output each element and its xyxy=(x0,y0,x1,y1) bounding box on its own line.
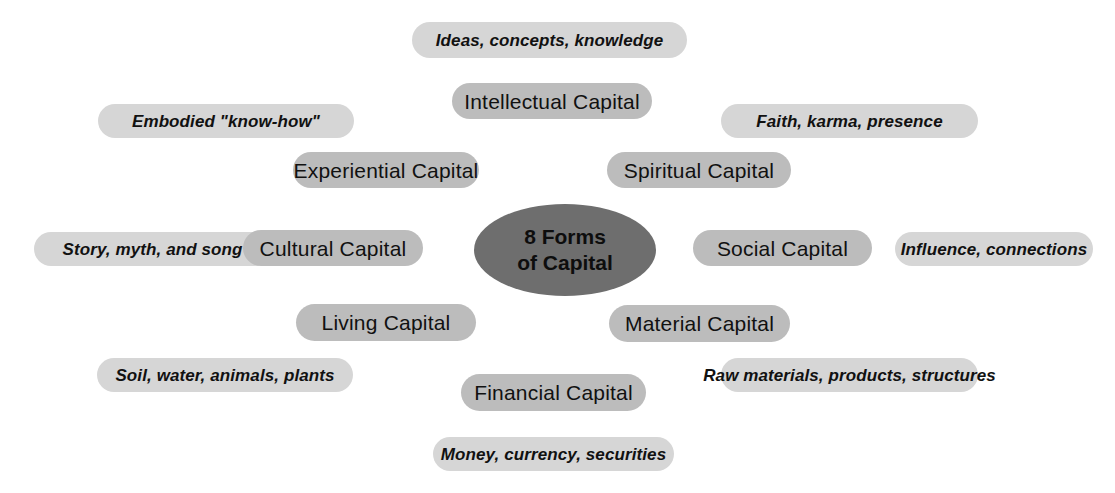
descriptor-living-capital: Soil, water, animals, plants xyxy=(97,358,353,392)
eight-forms-of-capital-diagram: 8 Forms of Capital Ideas, concepts, know… xyxy=(0,0,1115,493)
center-node-8-forms-of-capital: 8 Forms of Capital xyxy=(474,204,656,296)
node-living-capital[interactable]: Living Capital xyxy=(296,304,476,341)
center-node-line-2: of Capital xyxy=(517,250,613,276)
descriptor-intellectual-capital: Ideas, concepts, knowledge xyxy=(412,22,687,58)
node-experiential-capital[interactable]: Experiential Capital xyxy=(293,152,479,188)
node-financial-capital[interactable]: Financial Capital xyxy=(461,374,646,411)
descriptor-spiritual-capital: Faith, karma, presence xyxy=(721,104,978,138)
descriptor-experiential-capital: Embodied "know-how" xyxy=(98,104,354,138)
node-material-capital[interactable]: Material Capital xyxy=(609,305,790,342)
node-intellectual-capital[interactable]: Intellectual Capital xyxy=(452,83,652,119)
node-spiritual-capital[interactable]: Spiritual Capital xyxy=(607,152,791,188)
descriptor-material-capital: Raw materials, products, structures xyxy=(721,358,978,392)
node-social-capital[interactable]: Social Capital xyxy=(693,230,872,266)
node-cultural-capital[interactable]: Cultural Capital xyxy=(243,230,423,266)
descriptor-financial-capital: Money, currency, securities xyxy=(433,437,674,471)
descriptor-cultural-capital: Story, myth, and song xyxy=(34,232,271,266)
center-node-line-1: 8 Forms xyxy=(524,224,606,250)
descriptor-social-capital: Influence, connections xyxy=(895,232,1093,266)
